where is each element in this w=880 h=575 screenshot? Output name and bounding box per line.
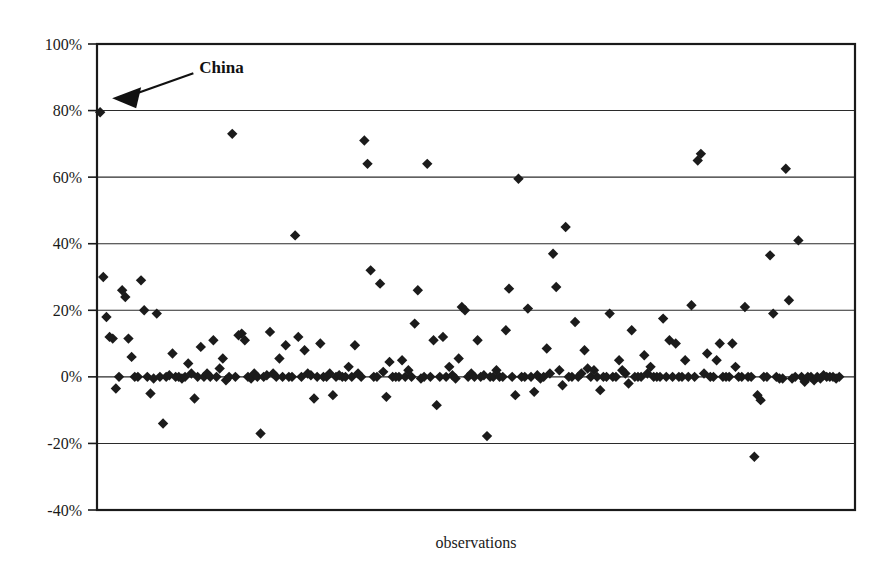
data-point [614, 355, 624, 365]
y-axis-tick-label: -20% [47, 435, 82, 452]
data-point [362, 159, 372, 169]
data-point [595, 385, 605, 395]
data-point [145, 388, 155, 398]
data-point [218, 353, 228, 363]
data-point [686, 300, 696, 310]
tickmarks-group [88, 44, 97, 510]
data-point [98, 272, 108, 282]
data-point [548, 249, 558, 259]
data-point [350, 340, 360, 350]
data-point [114, 372, 124, 382]
data-point [101, 312, 111, 322]
data-point [438, 332, 448, 342]
y-axis-tick-label: 20% [53, 302, 82, 319]
data-point [167, 348, 177, 358]
data-point [158, 418, 168, 428]
data-point [111, 383, 121, 393]
data-point [183, 358, 193, 368]
data-point [482, 431, 492, 441]
y-axis-tick-label: -40% [47, 502, 82, 519]
chart-canvas: 100%80%60%40%20%0%-20%-40% China observa… [0, 0, 880, 575]
data-point [472, 335, 482, 345]
data-point [189, 393, 199, 403]
data-point [504, 283, 514, 293]
annotation-arrow-line [134, 73, 193, 94]
data-point [381, 392, 391, 402]
x-axis-title: observations [436, 534, 517, 551]
data-point [749, 452, 759, 462]
data-point [309, 393, 319, 403]
data-point [281, 340, 291, 350]
data-point [501, 325, 511, 335]
data-point [428, 335, 438, 345]
y-axis-tick-label: 60% [53, 169, 82, 186]
data-point [727, 338, 737, 348]
data-point [196, 342, 206, 352]
data-point [227, 129, 237, 139]
data-point [208, 335, 218, 345]
data-point [290, 230, 300, 240]
data-point [255, 428, 265, 438]
data-point [529, 387, 539, 397]
data-point [274, 353, 284, 363]
data-point [523, 303, 533, 313]
data-point [715, 338, 725, 348]
data-point [397, 355, 407, 365]
data-point [560, 222, 570, 232]
data-point [557, 380, 567, 390]
data-point [375, 278, 385, 288]
data-point [554, 365, 564, 375]
data-point [422, 159, 432, 169]
data-point [680, 355, 690, 365]
data-point [658, 313, 668, 323]
china-annotation: China [112, 58, 244, 108]
y-axis-tick-label: 80% [53, 102, 82, 119]
annotation-arrow-head [112, 87, 141, 108]
y-axis-tick-label: 100% [45, 36, 82, 53]
data-point [626, 325, 636, 335]
data-point [136, 275, 146, 285]
data-point [293, 332, 303, 342]
annotation-label: China [199, 58, 244, 77]
data-point [384, 357, 394, 367]
data-point [765, 250, 775, 260]
y-axis-tick-labels: 100%80%60%40%20%0%-20%-40% [45, 36, 82, 519]
data-points-group [95, 107, 845, 462]
data-point [343, 362, 353, 372]
data-point [139, 305, 149, 315]
data-point [431, 400, 441, 410]
data-point [230, 372, 240, 382]
data-point [711, 355, 721, 365]
data-point [265, 327, 275, 337]
scatter-plot: 100%80%60%40%20%0%-20%-40% China observa… [0, 0, 880, 575]
data-point [702, 348, 712, 358]
gridlines-group [97, 111, 855, 444]
data-point [570, 317, 580, 327]
data-point [542, 343, 552, 353]
data-point [425, 372, 435, 382]
data-point [784, 295, 794, 305]
data-point [315, 338, 325, 348]
data-point [689, 372, 699, 382]
data-point [365, 265, 375, 275]
data-point [359, 135, 369, 145]
data-point [781, 164, 791, 174]
data-point [126, 352, 136, 362]
data-point [510, 390, 520, 400]
y-axis-tick-label: 0% [61, 368, 82, 385]
data-point [123, 333, 133, 343]
data-point [413, 285, 423, 295]
data-point [551, 282, 561, 292]
data-point [579, 345, 589, 355]
plot-frame [97, 44, 855, 510]
data-point [299, 345, 309, 355]
y-axis-tick-label: 40% [53, 235, 82, 252]
data-point [730, 362, 740, 372]
data-point [623, 378, 633, 388]
data-point [507, 372, 517, 382]
data-point [513, 174, 523, 184]
data-point [409, 318, 419, 328]
data-point [328, 390, 338, 400]
data-point [639, 350, 649, 360]
data-point [454, 353, 464, 363]
